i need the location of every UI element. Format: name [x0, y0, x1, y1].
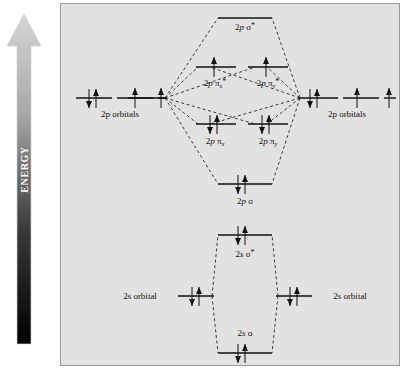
label-2p-sigma-star: 2p σ* [235, 22, 255, 32]
label-2p-pi-x-star: 2p πx* [204, 78, 227, 90]
label-2s-sigma-star: 2s σ* [235, 249, 254, 259]
correlation-lines-2p [165, 18, 300, 184]
label-2p-pi-x: 2p πx [206, 137, 225, 148]
label-right-2p-orbitals: 2p orbitals [328, 110, 366, 119]
figure-canvas: ENERGY [0, 0, 415, 378]
label-left-2s-orbital: 2s orbital [123, 292, 157, 301]
label-2p-pi-y-star: 2p πy* [257, 78, 280, 90]
electron-arrows [86, 57, 392, 363]
mo-diagram-svg [0, 0, 415, 378]
label-left-2p-orbitals: 2p orbitals [101, 110, 139, 119]
label-2p-pi-y: 2p πy [259, 137, 278, 148]
label-2s-sigma: 2s σ [237, 329, 252, 338]
label-right-2s-orbital: 2s orbital [333, 292, 367, 301]
mo-level-lines [196, 18, 288, 353]
label-2p-sigma: 2p σ [237, 197, 253, 206]
